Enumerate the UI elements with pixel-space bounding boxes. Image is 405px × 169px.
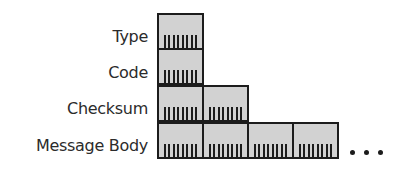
continuation-ellipsis-icon — [350, 150, 383, 155]
field-label-message-body: Message Body — [36, 136, 148, 156]
byte-cell — [292, 122, 339, 159]
field-label-code: Code — [108, 63, 148, 83]
byte-cell — [247, 122, 294, 159]
bit-ticks — [162, 70, 199, 83]
field-row-type — [157, 13, 202, 50]
field-row-code — [157, 48, 202, 85]
bit-ticks — [207, 107, 244, 120]
byte-cell — [157, 13, 204, 50]
bit-ticks — [162, 35, 199, 48]
byte-cell — [202, 122, 249, 159]
byte-cell — [157, 122, 204, 159]
field-label-type: Type — [112, 27, 148, 47]
byte-cell — [157, 85, 204, 122]
dot-icon — [350, 150, 355, 155]
byte-cell — [157, 48, 204, 85]
bit-ticks — [162, 107, 199, 120]
field-row-message-body — [157, 122, 337, 159]
bit-ticks — [297, 144, 334, 157]
bit-ticks — [162, 144, 199, 157]
field-row-checksum — [157, 85, 247, 122]
bit-ticks — [207, 144, 244, 157]
dot-icon — [364, 150, 369, 155]
field-label-checksum: Checksum — [67, 99, 148, 119]
bit-ticks — [252, 144, 289, 157]
byte-cell — [202, 85, 249, 122]
dot-icon — [378, 150, 383, 155]
